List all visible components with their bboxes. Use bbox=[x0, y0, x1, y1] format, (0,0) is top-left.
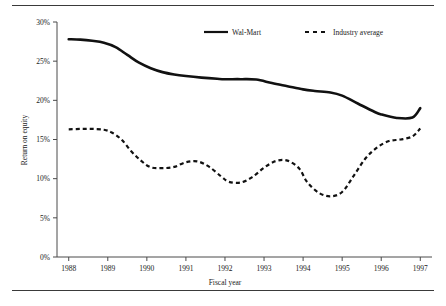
y-tick-label: 5% bbox=[40, 214, 50, 223]
series-line-wal-mart bbox=[69, 39, 421, 118]
x-tick-label: 1992 bbox=[217, 264, 232, 273]
chart-legend: Wal-MartIndustry average bbox=[204, 28, 384, 37]
x-tick-label: 1993 bbox=[257, 264, 272, 273]
x-tick-label: 1989 bbox=[100, 264, 115, 273]
line-chart: 0%5%10%15%20%25%30% 19881989199019911992… bbox=[0, 0, 446, 306]
axes-group bbox=[57, 22, 432, 257]
y-tick-label: 15% bbox=[36, 135, 50, 144]
y-axis-ticks: 0%5%10%15%20%25%30% bbox=[36, 18, 57, 262]
x-axis-title: Fiscal year bbox=[209, 278, 242, 287]
y-tick-label: 30% bbox=[36, 18, 50, 27]
legend-label-industry-average: Industry average bbox=[333, 28, 384, 37]
x-tick-label: 1997 bbox=[413, 264, 428, 273]
legend-label-wal-mart: Wal-Mart bbox=[232, 28, 262, 37]
y-tick-label: 20% bbox=[36, 96, 50, 105]
x-tick-label: 1994 bbox=[296, 264, 311, 273]
y-tick-label: 0% bbox=[40, 253, 50, 262]
y-axis-title: Return on equity bbox=[20, 115, 29, 166]
data-series-group bbox=[69, 39, 421, 196]
x-tick-label: 1995 bbox=[335, 264, 350, 273]
x-axis-ticks: 1988198919901991199219931994199519961997 bbox=[61, 257, 428, 273]
x-tick-label: 1990 bbox=[139, 264, 154, 273]
y-tick-label: 10% bbox=[36, 174, 50, 183]
figure-container: 0%5%10%15%20%25%30% 19881989199019911992… bbox=[0, 0, 446, 306]
y-tick-label: 25% bbox=[36, 57, 50, 66]
series-line-industry-average bbox=[69, 129, 421, 197]
x-tick-label: 1996 bbox=[374, 264, 389, 273]
x-tick-label: 1991 bbox=[178, 264, 193, 273]
x-tick-label: 1988 bbox=[61, 264, 76, 273]
